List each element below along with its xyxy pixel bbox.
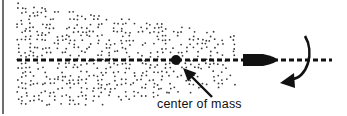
pointer-arrow [183,68,212,97]
diagram-canvas: center of mass [0,0,347,116]
rotation-arrow-icon [280,36,309,88]
projectile-shape [243,54,277,66]
particle-cloud [16,2,236,105]
center-of-mass-dot [171,55,181,65]
center-of-mass-label: center of mass [157,97,242,111]
